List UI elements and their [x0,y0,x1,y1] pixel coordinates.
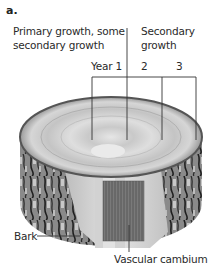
cross-section-top [20,97,202,177]
label-bark: Bark [14,230,37,243]
vascular-cambium-strip [103,181,144,241]
label-vascular-cambium: Vascular cambium [114,253,207,266]
